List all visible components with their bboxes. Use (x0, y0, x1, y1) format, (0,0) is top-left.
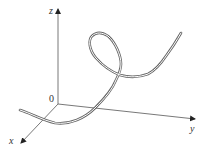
y-axis (58, 104, 195, 119)
y-axis-label: y (190, 124, 194, 134)
space-curve (20, 33, 181, 123)
origin-label: 0 (49, 94, 54, 104)
x-axis-label: x (9, 136, 13, 146)
space-curve-figure: z y x 0 (0, 0, 207, 158)
z-axis-label: z (49, 6, 53, 16)
diagram-canvas (0, 0, 207, 158)
